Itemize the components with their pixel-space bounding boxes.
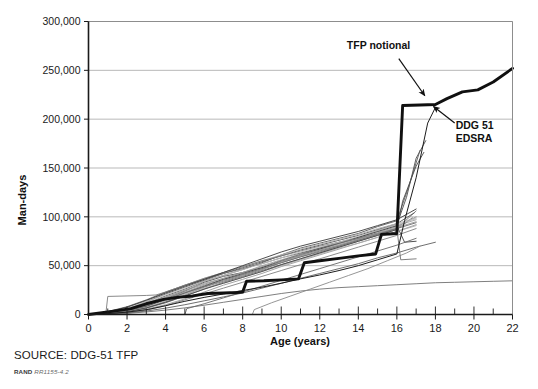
y-tick-label: 100,000 <box>43 211 81 223</box>
man-days-vs-age-chart: 050,000100,000150,000200,000250,000300,0… <box>0 0 538 389</box>
y-axis-title: Man-days <box>16 175 28 226</box>
y-tick-label: 50,000 <box>48 259 80 271</box>
x-tick-label: 12 <box>314 322 326 334</box>
x-tick-label: 14 <box>352 322 364 334</box>
x-tick-label: 16 <box>391 322 403 334</box>
x-tick-label: 4 <box>163 322 169 334</box>
y-tick-label: 300,000 <box>43 15 81 27</box>
x-tick-label: 22 <box>506 322 518 334</box>
annotation-label-edsra: EDSRA <box>456 132 493 144</box>
annotation-label-tfp-notional: TFP notional <box>347 39 410 51</box>
x-tick-label: 2 <box>124 322 130 334</box>
y-tick-label: 0 <box>75 308 81 320</box>
x-tick-label: 18 <box>429 322 441 334</box>
x-tick-label: 10 <box>275 322 287 334</box>
x-axis-title: Age (years) <box>270 335 330 347</box>
y-tick-label: 150,000 <box>43 162 81 174</box>
x-tick-label: 20 <box>468 322 480 334</box>
rand-logo-text: RAND <box>14 368 32 375</box>
source-note: SOURCE: DDG-51 TFP <box>14 349 138 361</box>
x-tick-label: 6 <box>201 322 207 334</box>
x-tick-label: 8 <box>240 322 246 334</box>
x-tick-label: 0 <box>85 322 91 334</box>
y-tick-label: 250,000 <box>43 64 81 76</box>
chart-background <box>0 0 538 389</box>
figure-container: 050,000100,000150,000200,000250,000300,0… <box>0 0 538 389</box>
y-tick-label: 200,000 <box>43 113 81 125</box>
annotation-label-ddg-51: DDG 51 <box>456 119 494 131</box>
rand-report-number: RR1155-4.2 <box>34 368 68 375</box>
rand-document-id: RAND RR1155-4.2 <box>14 368 69 375</box>
